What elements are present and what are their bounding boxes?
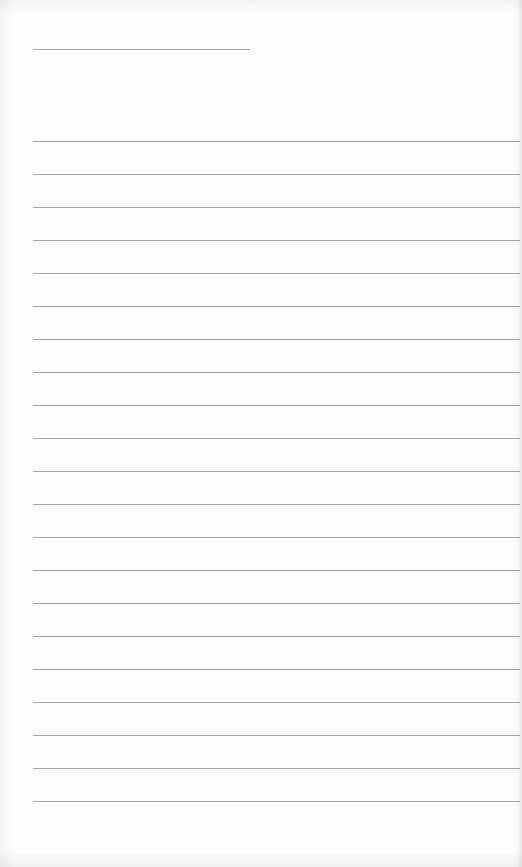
rule-line xyxy=(33,603,520,604)
rule-line xyxy=(33,570,520,571)
rule-line xyxy=(33,471,520,472)
rule-line xyxy=(33,438,520,439)
rule-line xyxy=(33,669,520,670)
rule-line xyxy=(33,636,520,637)
rule-line xyxy=(33,801,520,802)
rule-line xyxy=(33,339,520,340)
rule-line xyxy=(33,306,520,307)
rule-line xyxy=(33,174,520,175)
rule-line xyxy=(33,735,520,736)
rule-line xyxy=(33,504,520,505)
rule-line xyxy=(33,240,520,241)
rule-line xyxy=(33,537,520,538)
rule-line xyxy=(33,207,520,208)
rule-line xyxy=(33,372,520,373)
lined-paper-sheet xyxy=(0,0,522,867)
rule-line xyxy=(33,702,520,703)
rule-line xyxy=(33,141,520,142)
header-line xyxy=(33,49,250,50)
rule-line xyxy=(33,405,520,406)
rule-line xyxy=(33,768,520,769)
rule-line xyxy=(33,273,520,274)
